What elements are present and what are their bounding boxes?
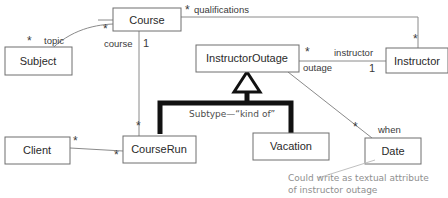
subtype-discriminator-label: Subtype—“kind of” (189, 109, 275, 119)
class-label-client: Client (23, 144, 51, 156)
multiplicity-course-star: * (103, 22, 108, 36)
multiplicity-courserun-left-star: * (114, 148, 119, 162)
multiplicity-client-star: * (73, 134, 78, 148)
multiplicity-instructor-top-star: * (413, 32, 418, 46)
class-label-subject: Subject (20, 55, 57, 67)
multiplicity-subject-star: * (27, 34, 32, 48)
class-label-course: Course (129, 14, 164, 26)
association-outage-date (288, 72, 372, 138)
association-qualifications (181, 17, 418, 48)
class-label-instructor-outage: InstructorOutage (206, 52, 288, 64)
multiplicity-courserun-top-star: * (136, 119, 141, 133)
role-label-outage: outage (303, 62, 332, 73)
multiplicity-qualifications-star: * (185, 3, 190, 17)
uml-class-diagram: Course Subject InstructorOutage Instruct… (0, 0, 448, 198)
generalization-triangle (234, 72, 260, 92)
note-text-line1: Could write as textual attribute (288, 173, 429, 183)
role-label-when: when (377, 124, 401, 135)
multiplicity-course-one: 1 (143, 37, 149, 49)
role-label-course: course (104, 38, 133, 49)
multiplicity-date-star: * (353, 120, 358, 134)
role-label-qualifications: qualifications (194, 4, 249, 15)
note-text-line2: of instructor outage (288, 185, 378, 195)
class-label-date: Date (381, 145, 404, 157)
multiplicity-outage-star: * (305, 45, 310, 59)
class-label-course-run: CourseRun (131, 143, 187, 155)
class-label-vacation: Vacation (270, 140, 312, 152)
role-label-instructor: instructor (334, 47, 373, 58)
class-label-instructor: Instructor (394, 55, 440, 67)
role-label-topic: topic (44, 35, 64, 46)
multiplicity-instructor-one: 1 (369, 62, 375, 74)
